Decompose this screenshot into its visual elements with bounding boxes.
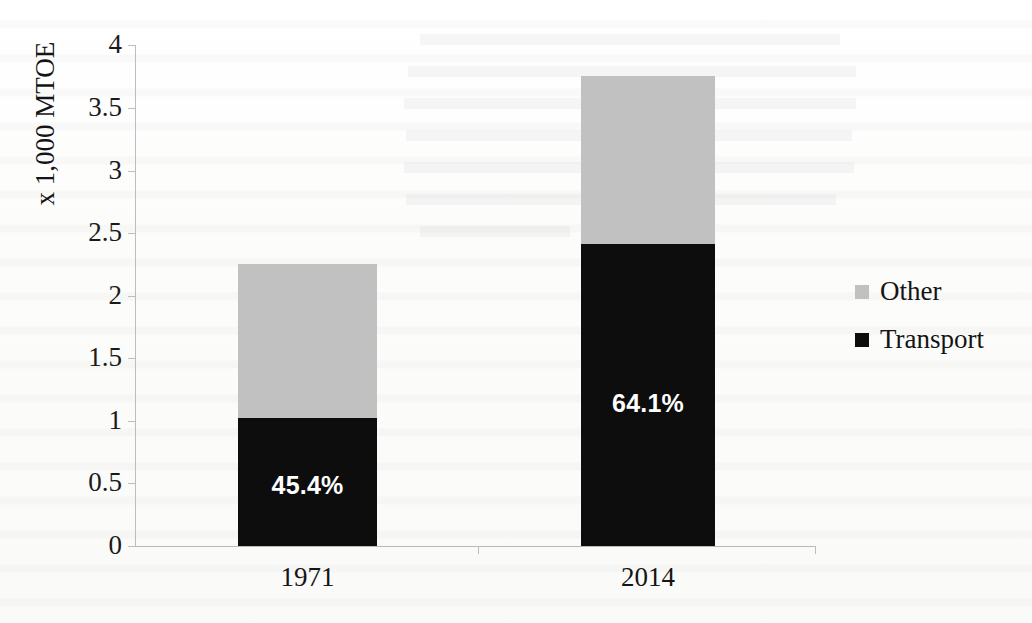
- legend-swatch-transport-icon: [855, 333, 869, 347]
- y-axis-tick-0p5: [128, 483, 136, 484]
- x-axis-category-label-1971: 1971: [238, 562, 377, 592]
- y-axis-tick-label-3p5: 3.5: [62, 94, 122, 121]
- paper-showthrough-block: [420, 34, 840, 45]
- y-axis-tick-3p5: [128, 108, 136, 109]
- y-axis-tick-2: [128, 296, 136, 297]
- y-axis-title: x 1,000 MTOE: [32, 34, 59, 214]
- y-axis-tick-label-1p5: 1.5: [62, 344, 122, 371]
- y-axis-tick-label-1: 1: [62, 407, 122, 434]
- y-axis-tick-label-3: 3: [62, 157, 122, 184]
- y-axis-tick-label-0: 0: [62, 532, 122, 559]
- y-axis-tick-label-0p5: 0.5: [62, 469, 122, 496]
- paper-showthrough-texture: [0, 0, 1032, 623]
- legend-label-other: Other: [880, 275, 941, 307]
- y-axis-tick-2p5: [128, 233, 136, 234]
- bar-1971-segment-other: [238, 264, 377, 418]
- x-axis-line: [135, 546, 816, 547]
- y-axis-tick-4: [128, 45, 136, 46]
- x-axis-tick-divider: [478, 546, 479, 554]
- paper-showthrough-block: [420, 226, 570, 237]
- legend-label-transport: Transport: [880, 323, 984, 355]
- y-axis-tick-0: [128, 546, 136, 547]
- x-axis-tick-end: [815, 546, 816, 554]
- legend-swatch-other-icon: [855, 285, 869, 299]
- chart-figure: x 1,000 MTOE 4 3.5 3 2.5 2 1.5 1 0.5 0 4: [0, 0, 1032, 623]
- bar-2014-value-label: 64.1%: [581, 391, 715, 416]
- y-axis-tick-1p5: [128, 358, 136, 359]
- bar-1971-value-label: 45.4%: [238, 473, 377, 498]
- y-axis-tick-3: [128, 171, 136, 172]
- y-axis-tick-label-4: 4: [62, 31, 122, 58]
- x-axis-category-label-2014: 2014: [581, 562, 715, 592]
- y-axis-tick-label-2p5: 2.5: [62, 219, 122, 246]
- y-axis-tick-label-2: 2: [62, 282, 122, 309]
- bar-2014-segment-other: [581, 76, 715, 244]
- y-axis-tick-1: [128, 421, 136, 422]
